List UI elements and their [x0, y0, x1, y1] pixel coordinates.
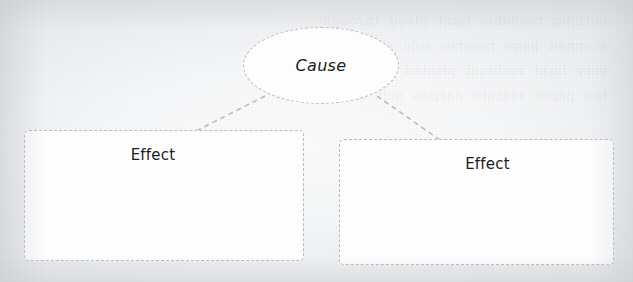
edge-shading-top: [0, 0, 633, 30]
cause-label: Cause: [296, 56, 347, 75]
connector-cause-to-effect-right: [377, 96, 440, 140]
effect-label-right: Effect: [465, 155, 510, 173]
effect-label-left: Effect: [131, 146, 176, 164]
connector-cause-to-effect-left: [196, 96, 265, 131]
effect-node-right[interactable]: Effect: [339, 139, 614, 265]
effect-node-left[interactable]: Effect: [24, 130, 304, 261]
diagram-canvas: nothing readable faint bleed through sca…: [0, 0, 633, 282]
cause-node[interactable]: Cause: [243, 27, 399, 104]
